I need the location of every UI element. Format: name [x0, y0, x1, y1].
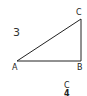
next-problem-number: 4 — [64, 90, 70, 96]
vertex-label-a: A — [12, 64, 17, 72]
triangle-figure — [0, 0, 87, 96]
vertex-label-b: B — [77, 64, 83, 72]
side-ac — [17, 19, 81, 61]
vertex-label-c: C — [76, 9, 82, 17]
